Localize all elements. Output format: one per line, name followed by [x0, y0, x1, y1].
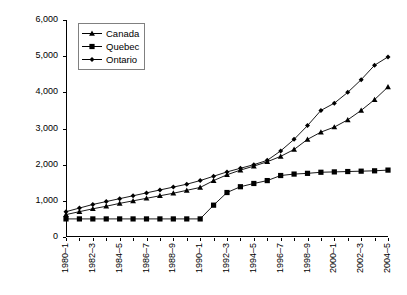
legend-item-quebec: Quebec: [82, 40, 139, 53]
x-tick-mark: [388, 238, 389, 241]
y-tick-label: 3,000: [18, 124, 58, 133]
data-point-marker: [89, 44, 94, 49]
x-tick-label: 2000–1: [329, 243, 338, 273]
x-tick-mark: [294, 238, 295, 241]
x-tick-mark: [173, 238, 174, 241]
data-point-marker: [171, 185, 176, 190]
data-point-marker: [345, 169, 350, 174]
x-tick-label: 1996–7: [276, 243, 285, 273]
y-tick-mark: [63, 201, 66, 202]
data-point-marker: [131, 193, 136, 198]
data-point-marker: [278, 153, 284, 158]
data-point-marker: [104, 199, 109, 204]
legend-label-ontario: Ontario: [102, 54, 137, 65]
y-tick-mark: [63, 129, 66, 130]
x-tick-label: 1984–5: [115, 243, 124, 273]
series-canada: [63, 84, 391, 217]
y-tick-mark: [63, 20, 66, 21]
data-point-marker: [117, 216, 122, 221]
data-point-marker: [184, 182, 189, 187]
legend-item-canada: Canada: [82, 27, 139, 40]
x-tick-label: 1990–1: [195, 243, 204, 273]
data-point-marker: [238, 184, 243, 189]
legend-label-canada: Canada: [102, 28, 139, 39]
data-point-marker: [90, 216, 95, 221]
canada-marker-icon: [82, 28, 102, 39]
x-tick-label: 1982–3: [88, 243, 97, 273]
x-tick-label: 1980–1: [61, 243, 70, 273]
x-tick-mark: [281, 238, 282, 241]
data-point-marker: [198, 178, 203, 183]
data-point-marker: [77, 206, 82, 211]
chart-figure: Current $/FTE 6,0005,0004,0003,0002,0001…: [0, 0, 407, 295]
x-tick-mark: [334, 238, 335, 241]
quebec-marker-icon: [82, 41, 102, 52]
x-tick-mark: [254, 238, 255, 241]
data-point-marker: [291, 147, 297, 152]
data-point-marker: [372, 168, 377, 173]
y-tick-label: 1,000: [18, 196, 58, 205]
x-tick-label: 2002–3: [356, 243, 365, 273]
data-point-marker: [225, 169, 230, 174]
series-line: [66, 57, 388, 212]
x-tick-mark: [79, 238, 80, 241]
x-tick-mark: [200, 238, 201, 241]
y-tick-label: 0: [18, 232, 58, 241]
y-tick-label: 4,000: [18, 87, 58, 96]
data-point-marker: [265, 178, 270, 183]
legend-label-quebec: Quebec: [102, 41, 139, 52]
data-point-marker: [211, 203, 216, 208]
x-tick-mark: [93, 238, 94, 241]
data-point-marker: [89, 31, 95, 36]
data-point-marker: [345, 117, 351, 122]
data-point-marker: [332, 169, 337, 174]
x-tick-mark: [375, 238, 376, 241]
data-point-marker: [385, 84, 391, 89]
x-tick-label: 1986–7: [142, 243, 151, 273]
data-point-marker: [64, 209, 69, 214]
data-point-marker: [90, 57, 95, 62]
x-tick-label: 1994–5: [249, 243, 258, 273]
legend-item-ontario: Ontario: [82, 53, 139, 66]
data-point-marker: [198, 216, 203, 221]
data-point-marker: [386, 54, 391, 59]
x-tick-label: 1988–9: [168, 243, 177, 273]
data-point-marker: [318, 170, 323, 175]
data-point-marker: [104, 216, 109, 221]
data-point-marker: [63, 216, 68, 221]
data-point-marker: [278, 173, 283, 178]
data-point-marker: [385, 167, 390, 172]
x-tick-mark: [267, 238, 268, 241]
data-point-marker: [211, 174, 216, 179]
data-point-marker: [130, 216, 135, 221]
y-tick-label: 6,000: [18, 15, 58, 24]
x-tick-label: 2004–5: [383, 243, 392, 273]
x-tick-mark: [106, 238, 107, 241]
series-line: [66, 87, 388, 215]
data-point-marker: [331, 124, 337, 129]
data-point-marker: [305, 171, 310, 176]
x-tick-mark: [120, 238, 121, 241]
x-tick-mark: [308, 238, 309, 241]
data-point-marker: [144, 216, 149, 221]
data-point-marker: [197, 185, 203, 190]
data-point-marker: [305, 136, 311, 141]
y-tick-mark: [63, 165, 66, 166]
ontario-marker-icon: [82, 54, 102, 65]
data-point-marker: [157, 187, 162, 192]
x-tick-mark: [321, 238, 322, 241]
data-point-marker: [117, 196, 122, 201]
data-point-marker: [291, 171, 296, 176]
y-tick-mark: [63, 92, 66, 93]
data-point-marker: [157, 216, 162, 221]
y-tick-mark: [63, 56, 66, 57]
x-tick-mark: [160, 238, 161, 241]
x-tick-mark: [133, 238, 134, 241]
x-tick-mark: [147, 238, 148, 241]
x-tick-mark: [227, 238, 228, 241]
chart-legend: Canada Quebec Ontario: [78, 23, 145, 70]
data-point-marker: [184, 216, 189, 221]
data-point-marker: [144, 190, 149, 195]
y-tick-label: 2,000: [18, 160, 58, 169]
x-tick-mark: [214, 238, 215, 241]
